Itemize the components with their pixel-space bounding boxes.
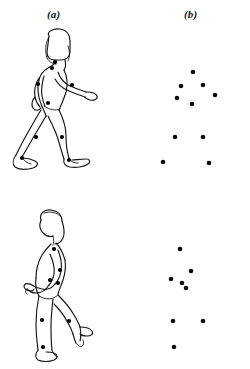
joint-dot-hip bbox=[56, 281, 60, 285]
joint-dot-shoulder bbox=[52, 247, 56, 251]
joint-dot-elbow-far bbox=[36, 82, 40, 86]
panel-label-a: (a) bbox=[47, 8, 60, 20]
light-dot-elbow bbox=[169, 277, 174, 282]
joint-dot-knee-rear bbox=[40, 318, 44, 322]
light-dot-knee-rear bbox=[171, 319, 176, 324]
light-dot-shoulder bbox=[189, 269, 194, 274]
light-dot-hip bbox=[190, 102, 195, 107]
light-dot-ankle-rear bbox=[172, 345, 177, 350]
panel-kneeling-figure-outline bbox=[8, 200, 132, 366]
kneeling-figure-drawing bbox=[8, 200, 132, 366]
light-dot-elbow-far bbox=[175, 96, 180, 101]
light-dot-knee-front bbox=[201, 135, 206, 140]
joint-dot-elbow bbox=[58, 268, 62, 272]
light-dot-ankle-front bbox=[207, 161, 212, 166]
joint-dot-shoulder bbox=[50, 66, 54, 70]
light-dot-knee-rear bbox=[173, 135, 178, 140]
joint-dot-elbow-near bbox=[70, 83, 74, 87]
joint-dot-ankle-front bbox=[67, 158, 71, 162]
light-dot-wrist bbox=[180, 281, 185, 286]
walking-figure-strokes bbox=[13, 29, 97, 170]
light-dot-head bbox=[191, 70, 196, 75]
light-dot-head bbox=[178, 247, 183, 252]
kneeling-light-dots bbox=[169, 247, 206, 350]
light-dot-ankle-rear bbox=[161, 160, 166, 165]
panel-walking-point-light bbox=[134, 26, 246, 186]
joint-dot-knee-rear bbox=[34, 135, 38, 139]
figure-page: (a) (b) bbox=[0, 0, 250, 369]
joint-dot-ankle-rear bbox=[41, 345, 45, 349]
joint-dot-hip bbox=[46, 101, 50, 105]
panel-label-b: (b) bbox=[184, 8, 197, 20]
walking-figure-drawing bbox=[8, 26, 132, 186]
walking-dot-display bbox=[134, 26, 246, 186]
walking-light-dots bbox=[161, 70, 218, 166]
joint-dot-ankle-rear bbox=[20, 156, 24, 160]
kneeling-dot-display bbox=[134, 200, 246, 366]
kneeling-figure-strokes bbox=[24, 210, 93, 362]
light-dot-elbow-near bbox=[201, 83, 206, 88]
caption-strip bbox=[0, 362, 250, 369]
panel-kneeling-point-light bbox=[134, 200, 246, 366]
light-dot-hip bbox=[184, 286, 189, 291]
light-dot-wrist-far bbox=[213, 93, 218, 98]
panel-walking-figure-outline bbox=[8, 26, 132, 186]
kneeling-figure-joint-dots bbox=[40, 247, 71, 349]
joint-dot-knee-front bbox=[67, 319, 71, 323]
joint-dot-knee-front bbox=[60, 135, 64, 139]
light-dot-shoulder bbox=[179, 84, 184, 89]
light-dot-knee-front bbox=[201, 319, 206, 324]
joint-dot-wrist bbox=[48, 278, 52, 282]
joint-dot-head bbox=[53, 60, 57, 64]
